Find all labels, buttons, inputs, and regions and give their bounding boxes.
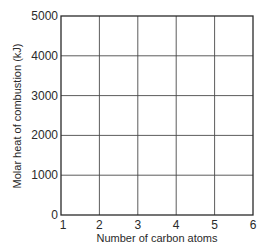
x-tick-label: 2 bbox=[96, 218, 103, 232]
grid-lines bbox=[61, 16, 253, 215]
y-tick-label: 2000 bbox=[31, 128, 58, 142]
x-axis-label: Number of carbon atoms bbox=[96, 232, 218, 244]
x-tick-label: 5 bbox=[211, 218, 218, 232]
x-tick-label: 4 bbox=[173, 218, 180, 232]
x-tick-labels: 123456 bbox=[60, 218, 257, 232]
y-tick-label: 3000 bbox=[31, 89, 58, 103]
plot-frame bbox=[61, 16, 253, 215]
y-tick-labels: 010002000300040005000 bbox=[31, 9, 58, 222]
y-tick-label: 1000 bbox=[31, 168, 58, 182]
y-tick-label: 5000 bbox=[31, 9, 58, 23]
x-tick-label: 1 bbox=[60, 218, 67, 232]
chart-area: 123456 010002000300040005000 Number of c… bbox=[0, 0, 269, 252]
y-tick-label: 4000 bbox=[31, 49, 58, 63]
x-tick-label: 6 bbox=[250, 218, 257, 232]
y-tick-label: 0 bbox=[51, 208, 58, 222]
x-tick-label: 3 bbox=[134, 218, 141, 232]
y-axis-label: Molar heat of combustion (kJ) bbox=[11, 44, 23, 189]
